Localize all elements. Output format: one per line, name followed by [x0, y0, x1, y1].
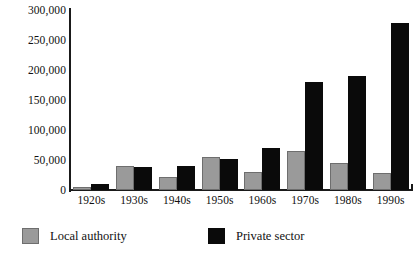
y-axis-tick-label: 300,000 [2, 5, 66, 16]
y-axis-tick-label: 150,000 [2, 95, 66, 106]
y-axis-tick-label: 100,000 [2, 125, 66, 136]
bar-group [113, 10, 156, 190]
legend-swatch-local-authority [22, 228, 39, 244]
y-axis-tick-label: 50,000 [2, 155, 66, 166]
bar-group [156, 10, 199, 190]
bar-private-sector [220, 159, 238, 190]
bar-local-authority [202, 157, 220, 190]
y-axis-tick-label: 0 [2, 185, 66, 196]
y-axis-tick-label: 250,000 [2, 35, 66, 46]
x-axis-tick-label: 1940s [156, 194, 199, 206]
x-axis-tick-label: 1980s [327, 194, 370, 206]
x-axis-tick-labels: 1920s1930s1940s1950s1960s1970s1980s1990s [70, 194, 412, 206]
bar-local-authority [244, 172, 262, 190]
bar-local-authority [159, 177, 177, 190]
bar-private-sector [262, 148, 280, 190]
bar-group [369, 10, 412, 190]
bar-group [198, 10, 241, 190]
y-axis-tick-label: 200,000 [2, 65, 66, 76]
x-axis-tick-label: 1950s [198, 194, 241, 206]
chart-legend: Local authority Private sector [16, 224, 406, 248]
bar-local-authority [287, 151, 305, 190]
x-axis-tick-label: 1930s [113, 194, 156, 206]
bar-private-sector [134, 167, 152, 190]
bar-chart: 300,000250,000200,000150,000100,00050,00… [0, 0, 418, 256]
bar-private-sector [391, 23, 409, 190]
legend-swatch-private-sector [208, 228, 225, 244]
bar-group [327, 10, 370, 190]
legend-item-private-sector: Private sector [208, 228, 304, 244]
bar-group [284, 10, 327, 190]
x-axis-tick-label: 1970s [284, 194, 327, 206]
bar-group [241, 10, 284, 190]
bar-groups [70, 10, 412, 190]
legend-item-local-authority: Local authority [16, 228, 208, 244]
bar-local-authority [73, 187, 91, 190]
x-axis-tick-label: 1990s [369, 194, 412, 206]
bar-local-authority [373, 173, 391, 190]
legend-label-private-sector: Private sector [236, 229, 304, 244]
bar-private-sector [91, 184, 109, 190]
bar-private-sector [348, 76, 366, 190]
bar-group [70, 10, 113, 190]
bar-local-authority [330, 163, 348, 190]
bar-private-sector [305, 82, 323, 190]
bar-private-sector [177, 166, 195, 190]
bar-local-authority [116, 166, 134, 190]
x-axis-tick-label: 1920s [70, 194, 113, 206]
legend-label-local-authority: Local authority [50, 229, 127, 244]
x-axis-tick-label: 1960s [241, 194, 284, 206]
y-axis-tick-labels: 300,000250,000200,000150,000100,00050,00… [0, 0, 66, 200]
